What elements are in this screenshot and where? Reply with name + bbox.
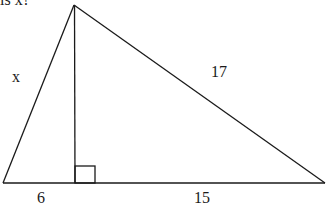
label-hypotenuse: 17	[211, 64, 227, 80]
triangle-diagram	[0, 0, 327, 205]
hypotenuse-line	[74, 5, 325, 183]
right-angle-marker	[75, 166, 95, 183]
left-side-line	[3, 5, 74, 183]
label-left-side-x: x	[12, 69, 20, 85]
label-left-base-segment: 6	[37, 190, 45, 205]
altitude-line	[75, 5, 76, 183]
question-text: is x?	[0, 0, 30, 8]
label-right-base-segment: 15	[194, 190, 210, 205]
